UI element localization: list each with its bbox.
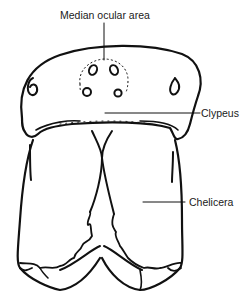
- spider-anatomy-diagram: [0, 0, 252, 303]
- leader-lines: [104, 23, 200, 202]
- label-clypeus: Clypeus: [201, 108, 239, 119]
- median-ocular-area: [80, 59, 128, 97]
- chelicerae: [18, 131, 183, 290]
- label-chelicera: Chelicera: [189, 197, 233, 208]
- label-median-ocular-area: Median ocular area: [60, 10, 150, 21]
